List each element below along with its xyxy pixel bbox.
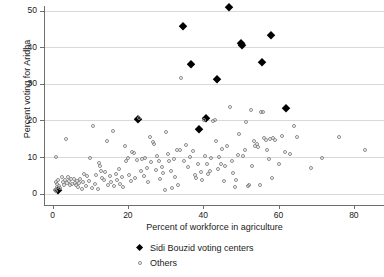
x-axis-line xyxy=(44,205,384,206)
data-point-other xyxy=(186,165,190,169)
data-point-other xyxy=(142,174,146,178)
data-point-other xyxy=(123,144,127,148)
data-point-other xyxy=(166,152,170,156)
data-point-other xyxy=(208,169,212,173)
x-tick-mark xyxy=(128,205,129,209)
x-tick-label: 80 xyxy=(349,211,358,220)
legend-label: Sidi Bouzid voting centers xyxy=(147,243,254,253)
data-point-other xyxy=(261,110,265,114)
data-point-other xyxy=(236,153,240,157)
data-point-other xyxy=(155,154,159,158)
data-point-other xyxy=(129,179,133,183)
data-point-other xyxy=(127,173,131,177)
data-point-other xyxy=(161,171,165,175)
data-point-other xyxy=(337,135,341,139)
data-point-other xyxy=(94,173,98,177)
data-point-other xyxy=(182,159,186,163)
data-point-other xyxy=(225,144,229,148)
data-point-other xyxy=(219,162,223,166)
gridline-y xyxy=(45,11,384,12)
data-point-other xyxy=(117,167,121,171)
data-point-other xyxy=(170,186,174,190)
data-point-other xyxy=(87,179,91,183)
data-point-other xyxy=(194,176,198,180)
data-point-other xyxy=(84,184,88,188)
data-point-other xyxy=(115,178,119,182)
data-point-other xyxy=(133,176,137,180)
data-point-sidi-bouzid xyxy=(225,3,233,11)
data-point-other xyxy=(88,156,92,160)
data-point-other xyxy=(160,165,164,169)
scatter-plot-figure: Percent voting for Aridha Percent of wor… xyxy=(0,0,384,277)
data-point-sidi-bouzid xyxy=(187,60,195,68)
data-point-other xyxy=(217,155,221,159)
data-point-other xyxy=(295,135,299,139)
data-point-other xyxy=(96,187,100,191)
data-point-other xyxy=(137,116,141,120)
data-point-other xyxy=(173,175,177,179)
data-point-other xyxy=(292,124,296,128)
data-point-other xyxy=(139,169,143,173)
data-point-other xyxy=(126,156,130,160)
data-point-other xyxy=(145,166,149,170)
x-tick-label: 20 xyxy=(123,211,132,220)
data-point-other xyxy=(112,184,116,188)
data-point-other xyxy=(148,135,152,139)
data-point-other xyxy=(121,185,125,189)
data-point-other xyxy=(105,139,109,143)
plot-area xyxy=(45,0,384,199)
data-point-other xyxy=(158,177,162,181)
data-point-sidi-bouzid xyxy=(213,75,221,83)
data-point-other xyxy=(222,179,226,183)
data-point-other xyxy=(256,145,260,149)
data-point-other xyxy=(249,108,253,112)
x-tick-mark xyxy=(279,205,280,209)
data-point-other xyxy=(231,171,235,175)
x-tick-mark xyxy=(203,205,204,209)
y-tick-label: 30 xyxy=(15,79,45,88)
x-tick-label: 0 xyxy=(50,211,55,220)
data-point-other xyxy=(111,129,115,133)
data-point-other xyxy=(85,174,89,178)
data-point-other xyxy=(91,124,95,128)
data-point-other xyxy=(280,134,284,138)
y-tick: 30 xyxy=(0,79,45,88)
y-axis-line xyxy=(44,6,45,205)
data-point-other xyxy=(80,187,84,191)
data-point-other xyxy=(250,164,254,168)
data-point-other xyxy=(230,159,234,163)
data-point-other xyxy=(237,132,241,136)
x-tick-mark xyxy=(354,205,355,209)
y-tick: 40 xyxy=(0,43,45,52)
legend-label: Others xyxy=(147,258,177,268)
data-point-other xyxy=(265,148,269,152)
data-point-other xyxy=(191,149,195,153)
data-point-other xyxy=(103,170,107,174)
data-point-other xyxy=(98,164,102,168)
data-point-other xyxy=(176,183,180,187)
y-tick: 50 xyxy=(0,6,45,15)
data-point-other xyxy=(102,178,106,182)
data-point-other xyxy=(167,159,171,163)
data-point-sidi-bouzid xyxy=(195,125,203,133)
open-circle-icon xyxy=(133,261,147,265)
data-point-other xyxy=(64,137,68,141)
data-point-other xyxy=(216,167,220,171)
data-point-other xyxy=(220,147,224,151)
data-point-other xyxy=(247,183,251,187)
data-point-other xyxy=(114,172,118,176)
data-point-other xyxy=(178,148,182,152)
data-point-other xyxy=(154,168,158,172)
data-point-other xyxy=(179,76,183,80)
data-point-other xyxy=(157,159,161,163)
data-point-other xyxy=(169,169,173,173)
x-tick-label: 60 xyxy=(274,211,283,220)
data-point-other xyxy=(205,162,209,166)
x-axis-label: Percent of workforce in agriculture xyxy=(45,222,384,232)
data-point-other xyxy=(214,139,218,143)
y-tick-label: 40 xyxy=(15,43,45,52)
data-point-sidi-bouzid xyxy=(282,104,290,112)
data-point-other xyxy=(320,156,324,160)
data-point-other xyxy=(228,105,232,109)
data-point-other xyxy=(120,175,124,179)
